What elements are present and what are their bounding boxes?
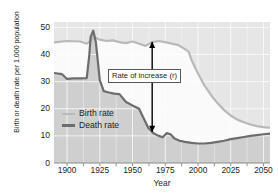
plot-area <box>54 22 270 163</box>
chart-svg <box>54 22 270 169</box>
legend-item-death-rate: Death rate <box>62 120 119 132</box>
y-tick-label: 40 <box>14 50 50 59</box>
y-tick-label: 50 <box>14 23 50 32</box>
legend-item-birth-rate: Birth rate <box>62 108 119 120</box>
figure: Birth or death rate per 1,000 population… <box>0 0 278 196</box>
annotation-rate-of-increase: Rate of increase (r) <box>108 69 181 84</box>
legend-label-birth-rate: Birth rate <box>79 108 114 120</box>
x-axis-title: Year <box>54 178 270 188</box>
death-rate-line-icon <box>62 124 75 127</box>
birth-rate-line-icon <box>62 113 75 116</box>
legend-label-death-rate: Death rate <box>79 120 119 132</box>
x-tick-label: 2050 <box>243 166 278 174</box>
legend: Birth rate Death rate <box>62 108 119 131</box>
y-tick-label: 10 <box>14 131 50 140</box>
y-tick-label: 20 <box>14 104 50 113</box>
y-tick-label: 30 <box>14 77 50 86</box>
